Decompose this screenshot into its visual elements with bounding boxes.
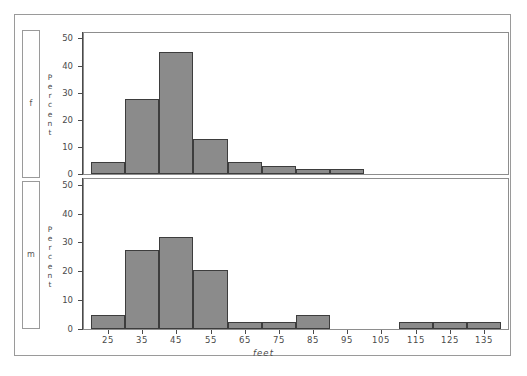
x-axis-tick — [381, 330, 382, 334]
x-axis-tick — [211, 330, 212, 334]
y-axis-tick-label: 10 — [51, 143, 73, 152]
x-axis-tick — [416, 330, 417, 334]
histogram-bar — [262, 322, 296, 329]
y-axis-tick-label: 0 — [51, 170, 73, 179]
y-axis-tick — [78, 66, 82, 67]
histogram-bar — [125, 250, 159, 329]
y-axis-title-letter: c — [48, 252, 52, 261]
x-axis-title: feet — [0, 348, 527, 358]
y-axis-tick — [78, 214, 82, 215]
histogram-bar — [296, 315, 330, 329]
y-axis-tick — [78, 185, 82, 186]
x-axis-tick-label: 115 — [401, 336, 431, 345]
y-axis-tick — [78, 271, 82, 272]
y-axis-tick-label: 20 — [51, 116, 73, 125]
y-axis-tick-label: 50 — [51, 181, 73, 190]
y-axis-title-letter: t — [49, 128, 52, 137]
panel-strip-label-male: m — [22, 181, 40, 329]
histogram-bar — [228, 322, 262, 329]
x-axis-tick-label: 45 — [161, 336, 191, 345]
histogram-bar — [399, 322, 433, 329]
histogram-bar — [467, 322, 501, 329]
x-axis-tick — [108, 330, 109, 334]
x-axis-tick-label: 55 — [196, 336, 226, 345]
y-axis-tick-label: 10 — [51, 296, 73, 305]
x-axis-tick-label: 65 — [230, 336, 260, 345]
y-axis-title-letter: t — [49, 280, 52, 289]
x-axis-tick — [450, 330, 451, 334]
y-axis-title-bottom: Percent — [44, 212, 56, 302]
histogram-bar — [296, 169, 330, 174]
y-axis-tick-label: 40 — [51, 210, 73, 219]
x-axis-tick-label: 95 — [332, 336, 362, 345]
panel-top-plot — [83, 32, 509, 175]
y-axis-tick — [78, 174, 82, 175]
x-axis-tick — [347, 330, 348, 334]
x-axis-tick — [484, 330, 485, 334]
bars-container-bottom — [84, 179, 508, 329]
bars-container-top — [84, 33, 508, 174]
x-axis-tick-label: 85 — [298, 336, 328, 345]
x-axis-tick — [279, 330, 280, 334]
x-axis-tick — [245, 330, 246, 334]
histogram-bar — [91, 315, 125, 329]
y-axis-tick — [78, 242, 82, 243]
y-axis-line — [82, 32, 83, 175]
histogram-bar — [262, 166, 296, 174]
histogram-figure: f m Percent Percent 01020304050 01020304… — [0, 0, 527, 376]
x-axis-tick — [142, 330, 143, 334]
y-axis-line — [82, 178, 83, 330]
y-axis-title-letter: P — [48, 225, 53, 234]
histogram-bar — [159, 52, 193, 174]
x-axis-tick-label: 105 — [366, 336, 396, 345]
x-axis-tick-label: 75 — [264, 336, 294, 345]
histogram-bar — [159, 237, 193, 329]
x-axis-tick-label: 25 — [93, 336, 123, 345]
y-axis-tick-label: 20 — [51, 267, 73, 276]
y-axis-tick-label: 30 — [51, 89, 73, 98]
histogram-bar — [433, 322, 467, 329]
histogram-bar — [228, 162, 262, 174]
histogram-bar — [193, 270, 227, 329]
strip-label-text-top: f — [30, 100, 33, 108]
x-axis-tick — [176, 330, 177, 334]
y-axis-tick-label: 40 — [51, 62, 73, 71]
x-axis-tick-label: 135 — [469, 336, 499, 345]
x-axis-tick-label: 35 — [127, 336, 157, 345]
panel-bottom-plot — [83, 178, 509, 330]
histogram-bar — [91, 162, 125, 174]
y-axis-tick — [78, 38, 82, 39]
y-axis-tick — [78, 93, 82, 94]
panel-strip-label-female: f — [22, 30, 40, 178]
y-axis-title-letter: c — [48, 100, 52, 109]
y-axis-tick — [78, 329, 82, 330]
y-axis-tick-label: 30 — [51, 238, 73, 247]
x-axis-tick — [313, 330, 314, 334]
histogram-bar — [125, 99, 159, 174]
histogram-bar — [330, 169, 364, 174]
y-axis-title-top: Percent — [44, 60, 56, 150]
y-axis-tick — [78, 147, 82, 148]
y-axis-tick — [78, 300, 82, 301]
x-axis-tick-label: 125 — [435, 336, 465, 345]
y-axis-tick — [78, 120, 82, 121]
histogram-bar — [193, 139, 227, 174]
y-axis-title-letter: P — [48, 73, 53, 82]
strip-label-text-bottom: m — [27, 251, 35, 259]
y-axis-tick-label: 50 — [51, 34, 73, 43]
y-axis-tick-label: 0 — [51, 325, 73, 334]
